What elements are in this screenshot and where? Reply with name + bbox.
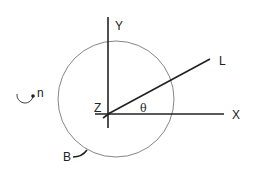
body-circle (58, 41, 174, 157)
line-l (108, 59, 210, 114)
coordinate-diagram: Y X Z L θ n B (0, 0, 254, 170)
rotation-arrow-icon (31, 94, 35, 98)
x-axis-label: X (232, 108, 240, 122)
rotation-n-label: n (37, 86, 44, 100)
diagram-canvas: Y X Z L θ n B (0, 0, 254, 170)
body-pointer (73, 150, 87, 157)
angle-theta-label: θ (140, 102, 147, 115)
z-axis-label: Z (94, 101, 101, 115)
body-b-label: B (63, 150, 71, 164)
line-l-label: L (219, 54, 226, 68)
y-axis-label: Y (115, 19, 123, 33)
rotation-arc (17, 94, 33, 103)
